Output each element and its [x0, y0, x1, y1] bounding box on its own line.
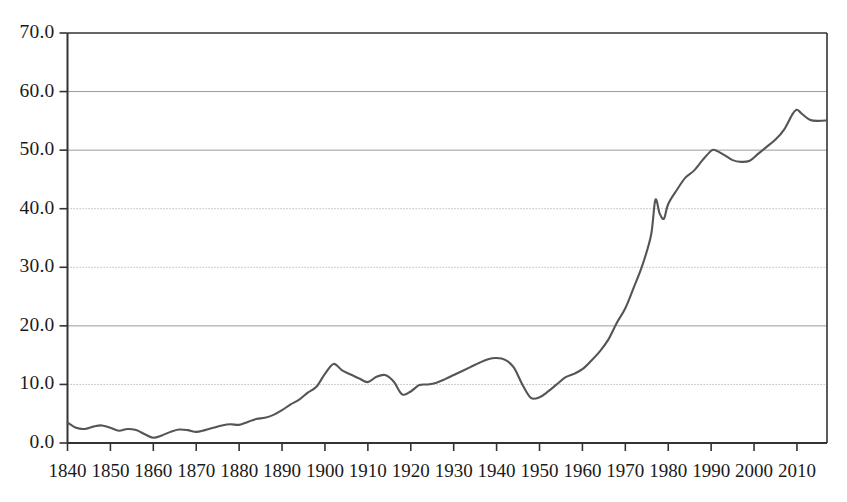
y-axis-label-20: 20.0: [20, 314, 55, 336]
y-axis-label-0: 0.0: [30, 431, 55, 453]
y-tick-marks-group: [60, 33, 68, 443]
data-line-1: [68, 110, 828, 438]
x-tick-marks-group: [68, 443, 797, 451]
chart-figure: 0.010.020.030.040.050.060.070.0 18401850…: [0, 0, 847, 502]
plot-frame: [68, 33, 828, 443]
gridlines-group: [68, 92, 828, 385]
y-axis-label-60: 60.0: [20, 80, 55, 102]
y-axis-label-30: 30.0: [20, 255, 55, 277]
y-axis-label-70: 70.0: [20, 21, 55, 43]
data-series-group: [68, 110, 828, 438]
y-axis-label-40: 40.0: [20, 197, 55, 219]
y-axis-label-10: 10.0: [20, 372, 55, 394]
y-axis-label-50: 50.0: [20, 138, 55, 160]
x-axis-label-2010: 2010: [767, 460, 827, 482]
chart-plot-area: [0, 0, 847, 502]
